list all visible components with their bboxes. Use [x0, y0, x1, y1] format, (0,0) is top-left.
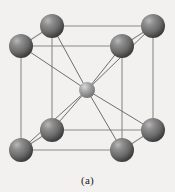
atoms-front-layer: [9, 34, 134, 162]
bcc-unit-cell-diagram: [0, 0, 175, 165]
corner-back-bottom-right-atom: [141, 118, 165, 142]
corner-front-bottom-right-atom: [110, 138, 134, 162]
corner-back-top-left-atom: [40, 14, 64, 38]
figure-container: (a): [0, 0, 175, 192]
corner-back-top-right-atom: [141, 14, 165, 38]
figure-caption: (a): [0, 174, 175, 186]
atoms-back-layer: [40, 14, 165, 142]
atom-center-layer: [79, 82, 95, 98]
center-atom: [79, 82, 95, 98]
cube-edges-back: [52, 26, 153, 130]
corner-back-bottom-left-atom: [40, 118, 64, 142]
corner-front-top-right-atom: [110, 34, 134, 58]
corner-front-top-left-atom: [9, 34, 33, 58]
corner-front-bottom-left-atom: [9, 138, 33, 162]
